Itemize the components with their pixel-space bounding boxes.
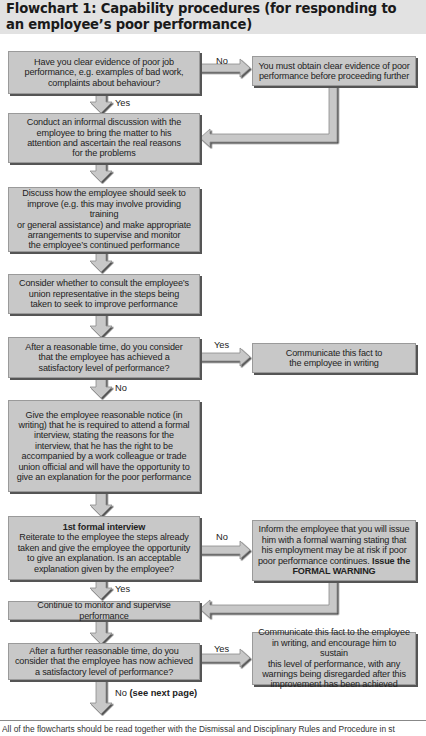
arrow-down-icon: [90, 492, 112, 516]
node-text: performance, e.g. examples of bad work,: [13, 67, 195, 77]
label-yes: Yes: [214, 340, 229, 350]
arrow-right-icon: [200, 541, 250, 559]
node-emphasis: FORMAL WARNING: [257, 566, 411, 576]
arrow-down-icon: [90, 620, 112, 644]
node-text: the employee’s continued performance: [13, 240, 195, 250]
node-text: improve (e.g. this may involve providing…: [13, 199, 195, 220]
node-text: Continue to monitor and supervise perfor…: [13, 600, 195, 621]
node-text: After a reasonable time, do you consider: [13, 342, 195, 352]
arrow-right-icon: [200, 348, 250, 366]
node-text: Communicate this fact to the employee: [257, 627, 411, 637]
label-see-next-page: (see next page): [129, 688, 197, 698]
decision-first-formal-interview: 1st formal interview Reiterate to the em…: [8, 516, 200, 580]
node-text: union official and will have the opportu…: [13, 462, 195, 472]
process-give-notice: Give the employee reasonable notice (in …: [8, 400, 200, 492]
arrow-return-icon: [200, 85, 337, 147]
node-text: that the employee has achieved a: [13, 352, 195, 362]
node-text: union representative in the steps being: [13, 289, 195, 299]
arrow-down-icon: [90, 94, 112, 113]
process-communicate-writing: Communicate this fact to the employee in…: [252, 343, 416, 373]
node-text: arrangements to supervise and monitor: [13, 230, 195, 240]
node-text: Conduct an informal discussion with the: [13, 117, 195, 127]
process-communicate-sustain: Communicate this fact to the employee in…: [252, 632, 416, 685]
label-no: No: [115, 383, 127, 393]
node-text: him with a formal warning stating that: [257, 535, 411, 545]
arrow-down-icon: [90, 580, 112, 599]
label-yes: Yes: [115, 98, 130, 108]
node-text: explanation given by the employee?: [13, 564, 195, 574]
node-text: performance before proceeding further: [257, 71, 411, 81]
node-text: attention and ascertain the real reasons: [13, 138, 195, 148]
node-text: this level of performance, with any: [257, 659, 411, 669]
arrow-down-icon: [90, 378, 112, 398]
arrow-down-icon: [90, 163, 112, 182]
arrow-down-icon: [90, 314, 112, 337]
node-text: Consider whether to consult the employee…: [13, 278, 195, 288]
label-no-next-page: No (see next page): [115, 688, 197, 698]
node-text: writing) that he is required to attend a…: [13, 420, 195, 430]
node-text: Give the employee reasonable notice (in: [13, 410, 195, 420]
node-text: interview, stating the reasons for the: [13, 430, 195, 440]
node-text: You must obtain clear evidence of poor: [257, 61, 411, 71]
footer-note: All of the flowcharts should be read tog…: [2, 724, 426, 734]
node-text: his employment may be at risk if poor: [257, 545, 411, 555]
node-text: Discuss how the employee should seek to: [13, 188, 195, 198]
arrow-down-icon: [90, 680, 112, 714]
node-text: Reiterate to the employee the steps alre…: [13, 532, 195, 542]
node-text: for the problems: [13, 148, 195, 158]
node-text: taken and give the employee the opportun…: [13, 543, 195, 553]
decision-further-satisfactory: After a further reasonable time, do you …: [8, 643, 200, 680]
process-informal-discussion: Conduct an informal discussion with the …: [8, 113, 200, 163]
node-text: to give an explanation. Is an acceptable: [13, 553, 195, 563]
node-text: satisfactory level of performance?: [13, 363, 195, 373]
node-text: employee to bring the matter to his: [13, 128, 195, 138]
node-text: give an explanation for the poor perform…: [13, 472, 195, 482]
process-formal-warning: Inform the employee that you will issue …: [252, 520, 416, 581]
decision-satisfactory-performance: After a reasonable time, do you consider…: [8, 337, 200, 378]
node-text: After a further reasonable time, do you: [13, 646, 195, 656]
node-text: or general assistance) and make appropri…: [13, 220, 195, 230]
process-obtain-evidence: You must obtain clear evidence of poor p…: [252, 56, 416, 86]
process-discuss-improvement: Discuss how the employee should seek to …: [8, 187, 200, 252]
arrow-return-icon: [200, 581, 337, 618]
label-yes: Yes: [115, 584, 130, 594]
node-text: in writing, and encourage him to sustain: [257, 638, 411, 659]
node-text: Communicate this fact to: [257, 348, 411, 358]
node-heading: 1st formal interview: [13, 522, 195, 532]
node-emphasis: Issue the: [372, 556, 410, 566]
process-consult-union: Consider whether to consult the employee…: [8, 274, 200, 314]
node-text: consider that the employee has now achie…: [13, 656, 195, 666]
node-text: taken to seek to improve performance: [13, 299, 195, 309]
arrow-down-icon: [90, 252, 112, 272]
node-text: a satisfactory level of performance?: [13, 667, 195, 677]
footer-divider: [0, 720, 426, 721]
process-continue-monitor: Continue to monitor and supervise perfor…: [8, 601, 200, 620]
label-no: No: [216, 532, 228, 542]
node-text: improvement has been achieved: [257, 679, 411, 689]
node-text: Have you clear evidence of poor job: [13, 57, 195, 67]
node-text: warnings being disregarded after this: [257, 669, 411, 679]
label-no: No: [216, 56, 228, 66]
node-text: complaints about behaviour?: [13, 78, 195, 88]
node-text: interview, that he has the right to be: [13, 441, 195, 451]
label-no: No: [115, 688, 127, 698]
node-text: accompanied by a work colleague or trade: [13, 451, 195, 461]
node-text: poor performance continues.: [258, 556, 370, 566]
decision-clear-evidence: Have you clear evidence of poor job perf…: [8, 51, 200, 94]
node-text: Inform the employee that you will issue: [257, 524, 411, 534]
node-text: the employee in writing: [257, 358, 411, 368]
label-yes: Yes: [214, 644, 229, 654]
